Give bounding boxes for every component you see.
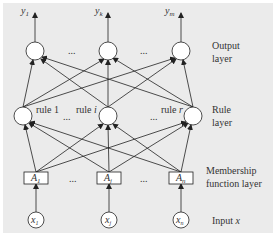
rule-ellipsis-1: ... (63, 111, 71, 122)
output-layer-title-1: Output (212, 40, 240, 51)
rule-ellipsis-2: ... (150, 111, 158, 122)
output-label-m: ym (164, 5, 175, 18)
rule-label-r: rule r (161, 104, 183, 115)
output-layer: y1 yk ym ... ... Output layer (20, 5, 240, 64)
membership-layer-title-2: function layer (206, 178, 262, 189)
output-ellipsis-1: ... (68, 45, 76, 56)
input-layer: x1 xj xn Input x (28, 212, 241, 228)
rule-label-i: rule i (76, 104, 97, 115)
rule-layer-title-1: Rule (212, 104, 231, 115)
rule-node-i (99, 107, 117, 125)
output-ellipsis-2: ... (140, 45, 148, 56)
membership-ellipsis-1: ... (69, 173, 77, 184)
rule-node-r (184, 107, 202, 125)
output-node-m (172, 42, 190, 60)
network-diagram: y1 yk ym ... ... Output layer rule 1 rul… (0, 0, 276, 238)
rule-node-1 (14, 107, 32, 125)
output-label-1: y1 (20, 5, 29, 18)
membership-ellipsis-2: ... (140, 173, 148, 184)
membership-layer-title-1: Membership (206, 165, 257, 176)
rule-label-1: rule 1 (36, 104, 59, 115)
output-label-k: yk (94, 5, 103, 18)
input-layer-title: Input x (212, 215, 241, 226)
output-node-1 (26, 42, 44, 60)
membership-layer: A1 Aj An ... ... Membership function lay… (24, 165, 262, 189)
output-node-k (99, 42, 117, 60)
rule-layer: rule 1 rule i rule r ... ... Rule layer (14, 104, 233, 128)
diagram-root: y1 yk ym ... ... Output layer rule 1 rul… (0, 0, 276, 238)
rule-layer-title-2: layer (212, 117, 233, 128)
output-layer-title-2: layer (212, 53, 233, 64)
